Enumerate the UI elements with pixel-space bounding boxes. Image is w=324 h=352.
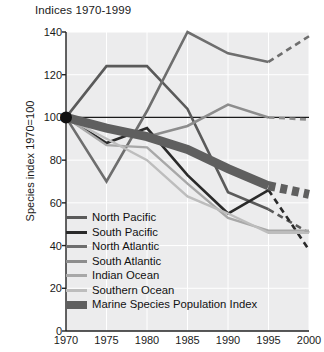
legend-swatch-icon [66, 245, 87, 248]
x-tick-label: 1975 [94, 334, 118, 346]
legend-item-4[interactable]: Indian Ocean [66, 269, 257, 283]
legend-item-2[interactable]: North Atlantic [66, 240, 257, 254]
x-tick-label: 1970 [54, 334, 78, 346]
legend-item-label: South Pacific [92, 227, 158, 238]
legend-swatch-icon [66, 301, 87, 309]
legend-item-3[interactable]: South Atlantic [66, 255, 257, 269]
x-tick-label: 1995 [256, 334, 280, 346]
legend-swatch-icon [66, 216, 87, 219]
legend-swatch-icon [66, 274, 87, 277]
x-tick-label: 1990 [216, 334, 240, 346]
legend-item-1[interactable]: South Pacific [66, 226, 257, 240]
legend-item-label: North Pacific [92, 212, 156, 223]
legend-item-6[interactable]: Marine Species Population Index [66, 298, 257, 312]
chart-legend: North PacificSouth PacificNorth Atlantic… [66, 211, 257, 312]
legend-item-label: Marine Species Population Index [92, 299, 257, 310]
legend-item-label: Southern Ocean [92, 285, 174, 296]
chart-container: Indices 1970-1999 Species index 1970=100… [0, 0, 324, 352]
legend-item-5[interactable]: Southern Ocean [66, 284, 257, 298]
legend-item-label: South Atlantic [92, 256, 161, 267]
legend-swatch-icon [66, 260, 87, 263]
origin-marker-dot [60, 111, 72, 123]
legend-item-0[interactable]: North Pacific [66, 211, 257, 225]
x-tick-label: 1985 [175, 334, 199, 346]
legend-swatch-icon [66, 289, 87, 292]
x-tick-label: 1980 [135, 334, 159, 346]
x-tick-label: 2000 [297, 334, 321, 346]
legend-swatch-icon [66, 231, 87, 234]
legend-item-label: Indian Ocean [92, 270, 159, 281]
legend-item-label: North Atlantic [92, 241, 159, 252]
